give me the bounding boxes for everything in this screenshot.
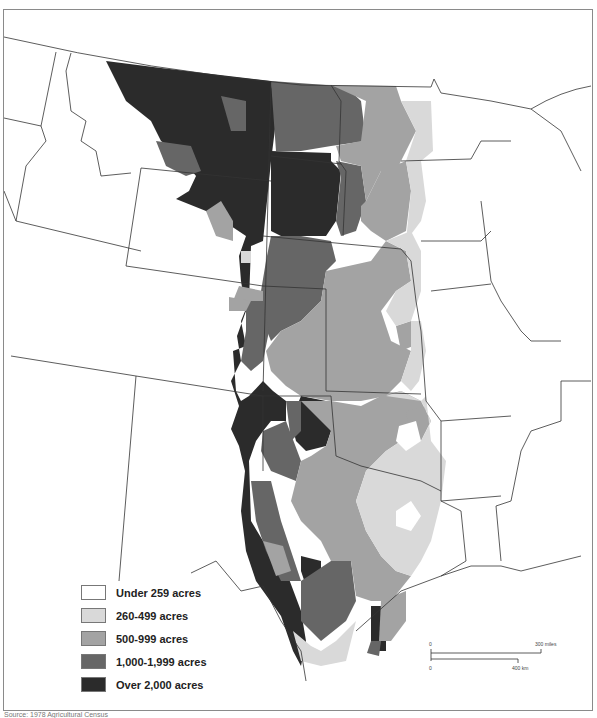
county-region xyxy=(441,211,453,226)
state-border xyxy=(41,52,56,126)
legend-label: 500-999 acres xyxy=(116,633,188,645)
county-region xyxy=(241,251,251,263)
state-border xyxy=(4,191,16,221)
state-border xyxy=(136,376,263,396)
legend-item-500-999: 500-999 acres xyxy=(81,627,207,650)
county-region xyxy=(336,161,366,236)
legend-swatch xyxy=(81,677,106,692)
legend-item-under-259: Under 259 acres xyxy=(81,581,207,604)
state-border xyxy=(16,221,141,251)
legend-swatch xyxy=(81,608,106,623)
state-border xyxy=(481,201,561,341)
state-border xyxy=(531,109,581,171)
state-border xyxy=(431,284,491,291)
scale-miles-zero: 0 xyxy=(429,641,432,647)
legend: Under 259 acres 260-499 acres 500-999 ac… xyxy=(81,581,207,696)
scale-km-zero: 0 xyxy=(429,665,432,671)
legend-swatch xyxy=(81,654,106,669)
legend-item-over-2000: Over 2,000 acres xyxy=(81,673,207,696)
legend-item-260-499: 260-499 acres xyxy=(81,604,207,627)
legend-label: 260-499 acres xyxy=(116,610,188,622)
state-border xyxy=(441,416,511,421)
scale-bar-lines xyxy=(429,637,579,677)
state-border xyxy=(421,231,491,241)
state-border xyxy=(119,376,136,581)
legend-label: Under 259 acres xyxy=(116,587,201,599)
legend-swatch xyxy=(81,585,106,600)
state-border xyxy=(431,79,531,109)
state-border xyxy=(471,141,511,159)
state-border xyxy=(441,496,501,501)
state-border xyxy=(531,86,591,109)
state-border xyxy=(496,381,591,561)
farm-size-regions xyxy=(106,61,453,666)
legend-item-1000-1999: 1,000-1,999 acres xyxy=(81,650,207,673)
legend-label: 1,000-1,999 acres xyxy=(116,656,207,668)
map-frame: Under 259 acres 260-499 acres 500-999 ac… xyxy=(3,9,593,711)
state-border xyxy=(4,118,46,221)
source-note: Source: 1978 Agricultural Census xyxy=(4,711,108,718)
scale-km-label: 400 km xyxy=(512,665,528,671)
county-region xyxy=(271,151,341,236)
scale-miles-label: 300 miles xyxy=(535,641,556,647)
scale-bar: 0 300 miles 0 400 km xyxy=(429,637,579,677)
county-region xyxy=(367,641,381,656)
legend-label: Over 2,000 acres xyxy=(116,679,203,691)
state-border xyxy=(11,356,136,376)
legend-swatch xyxy=(81,631,106,646)
